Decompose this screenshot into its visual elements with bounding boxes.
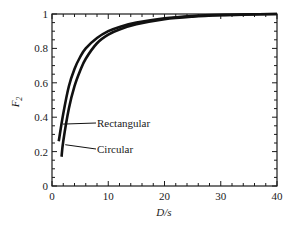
y-tick-label: 0.2 [34,146,48,158]
svg-text:F2: F2 [9,97,24,109]
x-tick-label: 20 [159,190,171,202]
y-tick-labels: 00.20.40.60.81 [34,8,48,192]
annotations: RectangularCircular [63,117,150,155]
x-tick-labels: 010203040 [49,190,283,202]
curves [59,14,277,157]
axis-ticks [52,14,277,186]
annotation-rectangular: Rectangular [97,117,150,129]
plot-frame [52,14,277,186]
curve-circular [62,14,277,157]
x-tick-label: 10 [103,190,115,202]
y-tick-label: 0.8 [34,42,48,54]
x-tick-label: 0 [49,190,55,202]
y-tick-label: 0.4 [34,111,48,123]
y-axis-label: F2 [9,97,24,109]
annotation-circular: Circular [97,143,133,155]
curve-rectangular [59,14,277,141]
x-tick-label: 30 [215,190,227,202]
y-tick-label: 0 [43,180,49,192]
x-axis-label: D/s [155,206,171,218]
y-tick-label: 0.6 [34,77,48,89]
x-tick-label: 40 [272,190,284,202]
y-tick-label: 1 [43,8,49,20]
chart: 010203040 00.20.40.60.81 RectangularCirc… [0,0,294,230]
